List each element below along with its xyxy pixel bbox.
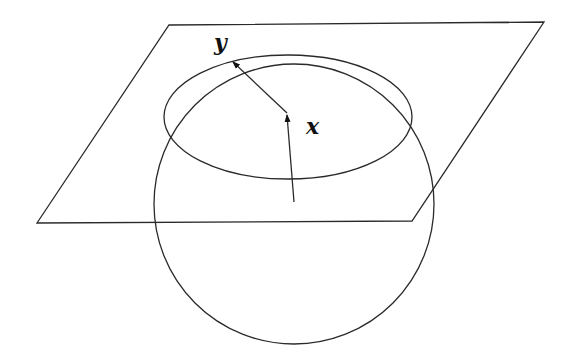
normal-arrow (287, 115, 294, 202)
sphere-outline (154, 64, 434, 344)
label-y: y (213, 29, 229, 55)
sphere-tangent-plane-diagram: y x (0, 0, 568, 361)
intersection-ellipse (164, 55, 412, 179)
tangent-plane (37, 22, 544, 223)
label-x: x (305, 113, 320, 139)
tangent-vector-arrow (233, 62, 287, 113)
